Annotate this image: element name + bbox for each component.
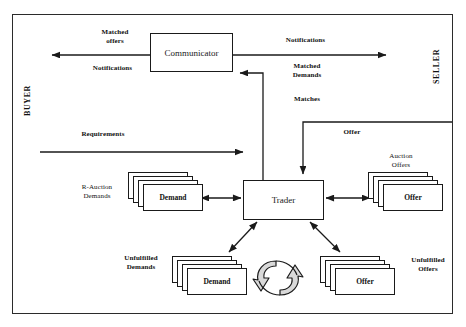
stack-front-offer[interactable]: Offer xyxy=(383,184,443,211)
stack-front-label: Offer xyxy=(404,193,422,202)
stack-unfulfilled-offers[interactable]: Offer xyxy=(320,256,400,298)
actor-label-buyer: BUYER xyxy=(23,79,32,123)
stack-r-auction-demands[interactable]: Demand xyxy=(128,172,208,214)
diagram-canvas: Communicator Trader Demand Offer Demand xyxy=(0,0,466,327)
stack-auction-offers[interactable]: Offer xyxy=(368,172,448,214)
caption-auction-offers: Auction Offers xyxy=(370,152,432,169)
edge-label-notifications-right: Notifications xyxy=(268,36,343,45)
stack-front-label: Offer xyxy=(356,277,374,286)
stack-unfulfilled-demands[interactable]: Demand xyxy=(172,256,252,298)
edge-label-matches: Matches xyxy=(272,95,342,104)
stack-front-demand[interactable]: Demand xyxy=(143,184,203,211)
caption-r-auction-demands: R-Auction Demands xyxy=(62,183,132,200)
node-trader-label: Trader xyxy=(272,195,296,205)
node-trader[interactable]: Trader xyxy=(243,180,324,220)
edge-label-requirements: Requirements xyxy=(58,130,148,139)
edge-trader-unfulfilled-demands xyxy=(229,222,257,252)
edge-label-matched-offers: Matched offers xyxy=(80,28,150,45)
stack-front-label: Demand xyxy=(203,277,230,286)
caption-unfulfilled-offers: Unfulfilled Offers xyxy=(396,256,460,273)
node-communicator-label: Communicator xyxy=(165,48,219,58)
edge-label-matched-demands: Matched Demands xyxy=(272,62,342,79)
recycle-cycle-icon xyxy=(253,261,303,295)
stack-front-offer[interactable]: Offer xyxy=(335,268,395,295)
stack-front-label: Demand xyxy=(159,193,186,202)
edge-label-notifications-left: Notifications xyxy=(75,64,150,73)
caption-unfulfilled-demands: Unfulfilled Demands xyxy=(104,254,178,271)
edge-label-offer: Offer xyxy=(325,128,379,137)
stack-front-demand[interactable]: Demand xyxy=(187,268,247,295)
edge-trader-unfulfilled-offers xyxy=(310,222,340,252)
node-communicator[interactable]: Communicator xyxy=(150,33,233,72)
actor-label-seller: SELLER xyxy=(432,43,441,91)
edge-trader-to-communicator-matches xyxy=(240,73,263,180)
